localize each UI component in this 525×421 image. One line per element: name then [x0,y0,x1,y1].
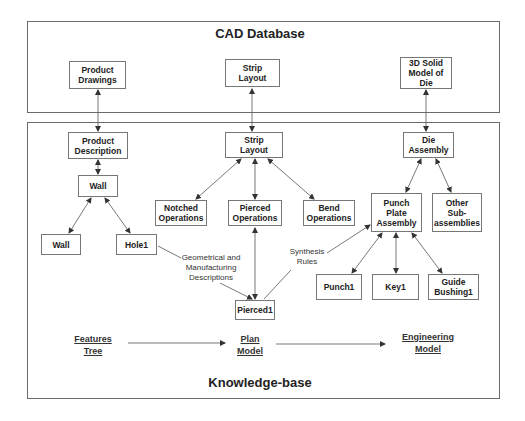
node-3d-solid-model[interactable]: 3D Solid Model of Die [400,57,452,89]
node-wall-child[interactable]: Wall [41,234,81,255]
node-other-subassemblies[interactable]: Other Sub- assemblies [432,193,482,232]
node-hole1[interactable]: Hole1 [116,234,157,255]
node-pierced-operations[interactable]: Pierced Operations [228,200,282,226]
annotation-synthesis-rules: Synthesis Rules [282,247,332,267]
annotation-geometrical-manufacturing: Geometrical and Manufacturing Descriptio… [172,253,250,283]
node-product-description[interactable]: Product Description [68,132,128,159]
node-strip-layout-kb[interactable]: Strip Layout [225,132,283,158]
node-wall-parent[interactable]: Wall [78,175,118,197]
node-punch-plate-assembly[interactable]: Punch Plate Assembly [371,193,422,232]
label-features-tree: Features Tree [63,333,123,357]
node-key1[interactable]: Key1 [372,274,419,300]
node-strip-layout-cad[interactable]: Strip Layout [225,59,280,87]
node-die-assembly[interactable]: Die Assembly [403,132,454,158]
node-pierced1[interactable]: Pierced1 [235,300,275,320]
node-guide-bushing1[interactable]: Guide Bushing1 [428,274,479,300]
node-notched-operations[interactable]: Notched Operations [155,200,207,226]
node-product-drawings[interactable]: Product Drawings [69,61,126,89]
label-plan-model: Plan Model [225,333,275,357]
node-punch1[interactable]: Punch1 [316,274,362,300]
node-bend-operations[interactable]: Bend Operations [303,200,355,226]
label-engineering-model: Engineering Model [393,331,463,355]
